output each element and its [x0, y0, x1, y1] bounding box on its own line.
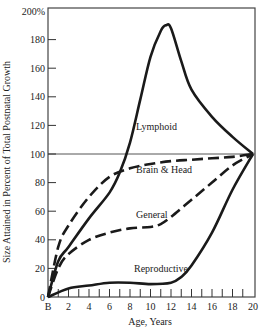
x-tick-label: 10 — [146, 301, 156, 312]
x-tick-label: 4 — [87, 301, 92, 312]
label-reproductive: Reproductive — [134, 263, 188, 274]
label-lymphoid: Lymphoid — [136, 121, 177, 132]
x-tick-label: 16 — [207, 301, 217, 312]
y-tick-label: 180 — [30, 34, 45, 45]
label-brain-head: Brain & Head — [136, 164, 192, 175]
label-general: General — [136, 209, 168, 220]
series-lines — [48, 24, 253, 297]
growth-chart: 020406080100120140160180200% B2468101214… — [0, 0, 259, 329]
y-axis: 020406080100120140160180200% — [22, 6, 56, 303]
y-tick-label: 80 — [35, 177, 45, 188]
x-tick-label: 6 — [107, 301, 112, 312]
series-lymphoid — [48, 24, 253, 297]
y-axis-title: Size Attained in Percent of Total Postna… — [1, 61, 12, 263]
series-reproductive — [48, 154, 253, 297]
x-tick-label: 14 — [187, 301, 197, 312]
y-tick-label: 60 — [35, 206, 45, 217]
x-axis: B2468101214161820 — [45, 289, 258, 312]
y-tick-label: 120 — [30, 120, 45, 131]
x-tick-label: 18 — [228, 301, 238, 312]
y-tick-label: 40 — [35, 234, 45, 245]
series-general — [48, 154, 253, 297]
y-tick-label: 100 — [30, 149, 45, 160]
y-tick-label: 160 — [30, 63, 45, 74]
x-tick-label: 12 — [166, 301, 176, 312]
x-tick-label: 8 — [128, 301, 133, 312]
series-brain-head — [48, 154, 253, 297]
y-tick-label: 200% — [22, 6, 45, 17]
y-tick-label: 140 — [30, 91, 45, 102]
x-tick-label: B — [45, 301, 52, 312]
y-tick-label: 20 — [35, 263, 45, 274]
x-axis-title: Age, Years — [128, 316, 172, 327]
x-tick-label: 20 — [248, 301, 258, 312]
x-tick-label: 2 — [66, 301, 71, 312]
